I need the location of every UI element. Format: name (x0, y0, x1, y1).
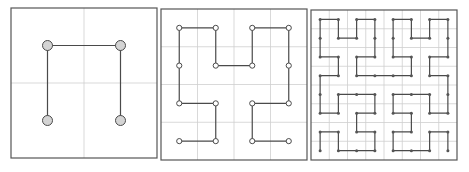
path-node (410, 74, 413, 77)
path-node (319, 130, 322, 133)
path-node (373, 74, 376, 77)
path-node (177, 139, 182, 144)
path-node (286, 25, 291, 30)
path-node (428, 93, 431, 96)
path-node (319, 112, 322, 115)
hilbert-order-3-panel (311, 10, 457, 160)
path-node (446, 55, 449, 58)
path-node (116, 41, 126, 51)
path-node (428, 112, 431, 115)
path-node (446, 74, 449, 77)
path-node (213, 25, 218, 30)
path-node (428, 149, 431, 152)
hilbert-order-1-panel (11, 8, 157, 158)
path-node (410, 130, 413, 133)
path-node (319, 149, 322, 152)
path-node (373, 93, 376, 96)
path-node (392, 74, 395, 77)
path-node (446, 18, 449, 21)
path-node (337, 37, 340, 40)
path-node (337, 55, 340, 58)
hilbert-order-2-panel (161, 9, 307, 160)
path-node (355, 93, 358, 96)
path-node (446, 112, 449, 115)
path-node (355, 74, 358, 77)
path-node (392, 18, 395, 21)
path-node (250, 25, 255, 30)
path-node (428, 18, 431, 21)
path-node (428, 37, 431, 40)
path-node (286, 101, 291, 106)
path-node (286, 63, 291, 68)
path-node (392, 130, 395, 133)
path-node (373, 112, 376, 115)
path-node (355, 55, 358, 58)
path-node (355, 112, 358, 115)
path-node (250, 101, 255, 106)
path-node (337, 130, 340, 133)
path-node (250, 139, 255, 144)
path-node (286, 139, 291, 144)
path-node (319, 93, 322, 96)
path-node (116, 116, 126, 126)
path-node (319, 55, 322, 58)
path-node (355, 130, 358, 133)
path-node (355, 149, 358, 152)
path-node (446, 93, 449, 96)
path-node (410, 93, 413, 96)
path-node (355, 37, 358, 40)
path-node (392, 112, 395, 115)
path-node (392, 93, 395, 96)
path-node (446, 37, 449, 40)
path-node (373, 55, 376, 58)
path-node (410, 55, 413, 58)
path-node (319, 37, 322, 40)
path-node (250, 63, 255, 68)
path-node (355, 18, 358, 21)
path-node (428, 130, 431, 133)
path-node (337, 149, 340, 152)
path-node (177, 101, 182, 106)
path-node (446, 130, 449, 133)
path-node (428, 55, 431, 58)
path-node (43, 41, 53, 51)
path-node (337, 74, 340, 77)
path-node (410, 18, 413, 21)
path-node (319, 18, 322, 21)
path-node (319, 74, 322, 77)
path-node (373, 149, 376, 152)
path-node (410, 37, 413, 40)
path-node (373, 130, 376, 133)
path-node (373, 18, 376, 21)
hilbert-curve-figure (0, 0, 469, 172)
path-node (446, 149, 449, 152)
path-node (337, 18, 340, 21)
path-node (213, 63, 218, 68)
path-node (373, 37, 376, 40)
path-node (213, 139, 218, 144)
path-node (392, 55, 395, 58)
path-node (392, 37, 395, 40)
path-node (337, 93, 340, 96)
path-node (177, 63, 182, 68)
path-node (177, 25, 182, 30)
path-node (410, 112, 413, 115)
path-node (43, 116, 53, 126)
path-node (392, 149, 395, 152)
path-node (410, 149, 413, 152)
path-node (428, 74, 431, 77)
path-node (213, 101, 218, 106)
path-node (337, 112, 340, 115)
